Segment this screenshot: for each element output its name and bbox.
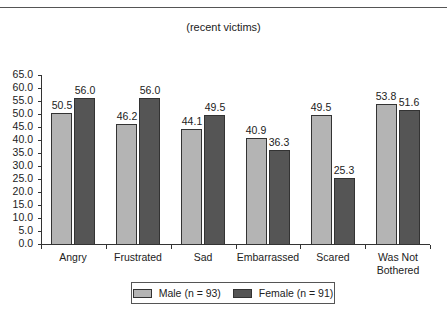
bar-female xyxy=(74,98,95,245)
y-tick-mark xyxy=(38,101,42,102)
bar-male xyxy=(246,138,267,245)
y-tick-label: 55.0 xyxy=(3,94,33,106)
bar-value-label: 56.0 xyxy=(70,84,100,96)
legend-swatch-female xyxy=(233,289,252,298)
legend-label-male: Male (n = 93) xyxy=(159,287,221,299)
y-tick-mark xyxy=(38,218,42,219)
y-tick-label: 60.0 xyxy=(3,81,33,93)
y-tick-label: 40.0 xyxy=(3,133,33,145)
bar-value-label: 51.6 xyxy=(394,96,424,108)
y-tick-mark xyxy=(38,153,42,154)
y-tick-label: 50.0 xyxy=(3,107,33,119)
legend-item-male: Male (n = 93) xyxy=(133,287,221,299)
bar-value-label: 50.5 xyxy=(47,99,77,111)
y-tick-mark xyxy=(38,114,42,115)
category-label: Was NotBothered xyxy=(366,251,430,277)
x-tick-mark xyxy=(365,245,366,249)
bar-male xyxy=(311,115,332,245)
bar-chart-plot: 0.05.010.015.020.025.030.035.040.045.050… xyxy=(0,0,447,314)
category-label: Angry xyxy=(41,251,105,264)
x-tick-mark xyxy=(106,245,107,249)
bar-value-label: 49.5 xyxy=(200,101,230,113)
y-tick-label: 0.0 xyxy=(3,237,33,249)
bar-female xyxy=(399,110,420,245)
y-tick-mark xyxy=(38,127,42,128)
y-tick-mark xyxy=(38,231,42,232)
category-label: Scared xyxy=(301,251,365,264)
bar-value-label: 44.1 xyxy=(177,115,207,127)
y-tick-mark xyxy=(38,192,42,193)
legend-item-female: Female (n = 91) xyxy=(233,287,333,299)
y-tick-label: 10.0 xyxy=(3,211,33,223)
bar-value-label: 40.9 xyxy=(241,124,271,136)
y-tick-label: 45.0 xyxy=(3,120,33,132)
bar-male xyxy=(376,104,397,245)
bar-value-label: 56.0 xyxy=(135,84,165,96)
bar-value-label: 25.3 xyxy=(329,164,359,176)
category-label: Embarrassed xyxy=(236,251,300,264)
x-tick-mark xyxy=(430,245,431,249)
y-tick-label: 20.0 xyxy=(3,185,33,197)
legend-swatch-male xyxy=(133,289,152,298)
bar-male xyxy=(181,129,202,245)
y-tick-mark xyxy=(38,205,42,206)
y-tick-label: 30.0 xyxy=(3,159,33,171)
chart-legend: Male (n = 93) Female (n = 91) xyxy=(131,282,335,304)
bar-value-label: 49.5 xyxy=(306,101,336,113)
y-tick-mark xyxy=(38,166,42,167)
y-tick-label: 25.0 xyxy=(3,172,33,184)
x-tick-mark xyxy=(41,245,42,249)
bar-female xyxy=(204,115,225,245)
bar-male xyxy=(51,113,72,245)
y-tick-label: 15.0 xyxy=(3,198,33,210)
x-tick-mark xyxy=(236,245,237,249)
bar-female xyxy=(269,150,290,245)
bar-value-label: 46.2 xyxy=(112,110,142,122)
y-tick-mark xyxy=(38,179,42,180)
y-tick-mark xyxy=(38,88,42,89)
bar-value-label: 36.3 xyxy=(264,136,294,148)
category-label: Frustrated xyxy=(106,251,170,264)
bar-female xyxy=(334,178,355,245)
y-tick-mark xyxy=(38,140,42,141)
bar-female xyxy=(139,98,160,245)
x-tick-mark xyxy=(300,245,301,249)
y-tick-label: 35.0 xyxy=(3,146,33,158)
x-tick-mark xyxy=(171,245,172,249)
y-tick-label: 65.0 xyxy=(3,68,33,80)
bar-male xyxy=(116,124,137,245)
category-label: Sad xyxy=(171,251,235,264)
legend-label-female: Female (n = 91) xyxy=(259,287,333,299)
y-tick-label: 5.0 xyxy=(3,224,33,236)
y-tick-mark xyxy=(38,75,42,76)
